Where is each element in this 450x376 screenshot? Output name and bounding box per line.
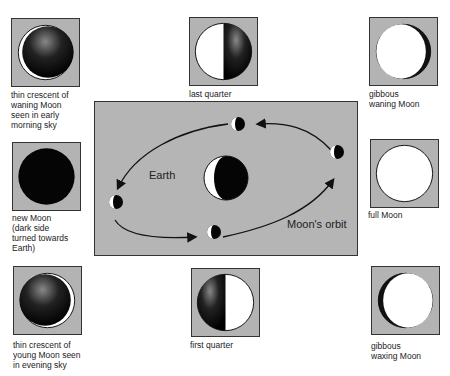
moon-waning-crescent-icon [12, 19, 79, 86]
caption-last-quarter: last quarter [189, 89, 232, 99]
caption-waning-crescent: thin crescent of waning Moon seen in ear… [11, 90, 69, 130]
phase-full-moon [370, 139, 439, 208]
moon-gibbous-waxing-icon [372, 267, 439, 334]
caption-gibbous-waning: gibbous waning Moon [369, 89, 420, 109]
caption-young-crescent: thin crescent of young Moon seen in even… [13, 340, 81, 370]
moon-full-icon [371, 140, 438, 207]
orbit-label: Moon's orbit [287, 218, 347, 230]
moon-young-crescent-icon [14, 267, 81, 334]
orbit-moon-bottom-icon [207, 225, 221, 239]
moon-new-icon [13, 143, 80, 210]
phase-first-quarter [191, 268, 260, 337]
caption-first-quarter: first quarter [190, 340, 233, 350]
phase-gibbous-waning [369, 17, 438, 86]
caption-gibbous-waxing: gibbous waxing Moon [371, 341, 421, 361]
phase-new-moon [12, 142, 81, 211]
caption-full-moon: full Moon [368, 210, 403, 220]
orbit-moon-left-icon [109, 195, 123, 209]
orbit-panel: Earth Moon's orbit [94, 101, 358, 256]
caption-new-moon: new Moon (dark side turned towards Earth… [12, 213, 68, 253]
phase-gibbous-waxing [371, 266, 440, 335]
orbit-diagram [95, 102, 359, 257]
moon-gibbous-waning-icon [370, 18, 437, 85]
earth-label: Earth [149, 169, 175, 181]
orbit-moon-top-icon [231, 117, 245, 131]
moon-first-quarter-icon [192, 269, 259, 336]
orbit-moon-right-icon [330, 145, 344, 159]
moon-last-quarter-icon [190, 18, 257, 85]
phase-young-crescent [13, 266, 82, 335]
phase-waning-crescent [11, 18, 80, 87]
phase-last-quarter [189, 17, 258, 86]
earth-icon [204, 156, 248, 200]
